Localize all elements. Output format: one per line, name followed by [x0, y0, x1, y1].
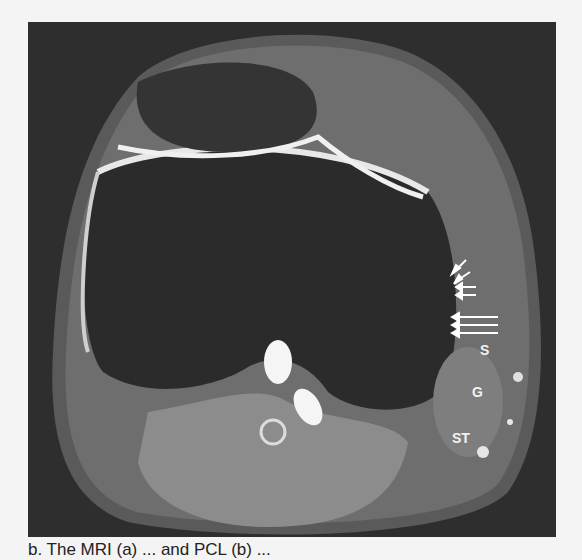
label-sartorius: S [480, 342, 489, 358]
label-semitendinosus: ST [452, 430, 470, 446]
mri-image: S G ST [28, 22, 556, 537]
label-gracilis: G [472, 384, 483, 400]
mri-knee-illustration [28, 22, 556, 537]
figure-caption: b. The MRI (a) ... and PCL (b) ... [28, 540, 568, 560]
